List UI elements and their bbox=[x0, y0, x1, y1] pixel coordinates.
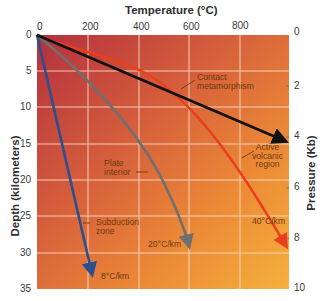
y-tick-20: 20 bbox=[20, 175, 31, 185]
x-tick-600: 600 bbox=[183, 22, 200, 32]
annotation-subduction-zone: Subduction zone bbox=[96, 218, 139, 235]
y-tick-15: 15 bbox=[20, 139, 31, 149]
annotation-contact-line2: metamorphism bbox=[197, 82, 254, 91]
y2-tick-10: 10 bbox=[294, 283, 305, 293]
gradient-label-8: 8°C/km bbox=[101, 272, 129, 281]
y2-axis-title: Pressure (Kb) bbox=[305, 128, 317, 218]
annotation-contact-metamorphism: Contact metamorphism bbox=[197, 73, 254, 90]
y-tick-5: 5 bbox=[26, 66, 32, 76]
x-tick-400: 400 bbox=[133, 22, 150, 32]
y-tick-35: 35 bbox=[20, 284, 31, 294]
y2-tick-6: 6 bbox=[294, 182, 300, 192]
annotation-subduction-line2: zone bbox=[96, 227, 139, 236]
annotation-plate-interior: Plate interior bbox=[104, 159, 130, 176]
y-tick-0: 0 bbox=[26, 30, 32, 40]
y2-tick-2: 2 bbox=[294, 81, 300, 91]
annotation-plate-line2: interior bbox=[104, 168, 130, 177]
x-axis-title: Temperature (°C) bbox=[125, 4, 218, 16]
x-tick-800: 800 bbox=[232, 21, 249, 31]
y2-tick-0: 0 bbox=[294, 27, 300, 37]
x-tick-0: 0 bbox=[37, 22, 43, 32]
y2-tick-4: 4 bbox=[294, 131, 300, 141]
gradient-label-20: 20°C/km bbox=[148, 240, 181, 249]
gradient-label-40: 40°C/km bbox=[252, 217, 285, 226]
y-tick-10: 10 bbox=[20, 102, 31, 112]
y2-tick-8: 8 bbox=[294, 233, 300, 243]
annotation-volcanic-line3: region bbox=[252, 160, 283, 169]
annotation-active-volcanic: Active volcanic region bbox=[252, 143, 283, 169]
x-tick-200: 200 bbox=[82, 22, 99, 32]
y-tick-25: 25 bbox=[20, 211, 31, 221]
y-tick-30: 30 bbox=[20, 248, 31, 258]
